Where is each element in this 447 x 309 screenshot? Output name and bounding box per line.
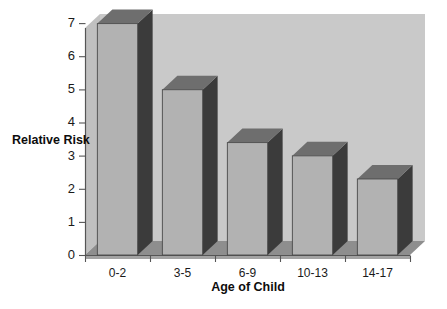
bar-front-face: [357, 179, 397, 255]
bar: [97, 10, 152, 255]
chart-canvas: 0 1 2 3 4 5 6 7 0-23-56-910-1314-17 Age …: [0, 0, 447, 309]
x-tick-label: 3-5: [174, 266, 192, 280]
y-tick-label: 3: [68, 148, 75, 163]
bar-side-face: [138, 10, 153, 255]
x-tick-label: 0-2: [109, 266, 127, 280]
x-axis-tick-labels: 0-23-56-910-1314-17: [109, 266, 393, 280]
bar: [357, 165, 412, 255]
y-tick-label: 5: [68, 81, 75, 96]
y-tick-label: 7: [68, 15, 75, 30]
bar: [227, 129, 282, 255]
bar-side-face: [333, 142, 348, 255]
bar-front-face: [162, 90, 202, 255]
x-axis-title: Age of Child: [211, 280, 285, 294]
x-tick-label: 14-17: [362, 266, 393, 280]
bar-front-face: [227, 143, 267, 255]
y-tick-label: 0: [68, 247, 75, 262]
y-tick-label: 6: [68, 48, 75, 63]
x-tick-label: 6-9: [239, 266, 257, 280]
bar: [162, 76, 217, 255]
bar: [292, 142, 347, 255]
y-tick-label: 4: [68, 114, 75, 129]
bar-side-face: [203, 76, 218, 255]
bar-chart: 0 1 2 3 4 5 6 7 0-23-56-910-1314-17 Age …: [0, 0, 447, 309]
bar-side-face: [268, 129, 283, 255]
y-tick-label: 1: [68, 214, 75, 229]
bar-front-face: [292, 156, 332, 255]
x-tick-label: 10-13: [297, 266, 328, 280]
y-tick-label: 2: [68, 181, 75, 196]
y-axis-title: Relative Risk: [12, 133, 90, 147]
bar-front-face: [97, 24, 137, 255]
bar-side-face: [398, 165, 413, 255]
